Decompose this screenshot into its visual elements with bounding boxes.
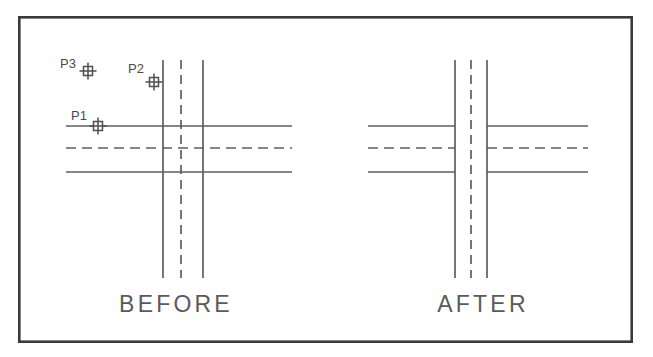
point-p3-label: P3 [60,56,76,71]
point-p1-label: P1 [71,108,87,123]
point-p2[interactable]: P2 [128,61,163,91]
panel-before: P3P2P1BEFORE [60,56,292,317]
point-p2-label: P2 [128,61,144,76]
point-p1[interactable]: P1 [71,108,107,135]
panel-after: AFTER [368,60,588,317]
cad-comparison-figure: P3P2P1BEFOREAFTER [0,0,653,357]
before-caption: BEFORE [119,291,233,317]
drawing-canvas: P3P2P1BEFOREAFTER [0,0,653,357]
after-caption: AFTER [437,291,528,317]
point-p3[interactable]: P3 [60,56,97,80]
drawing-frame [19,17,631,341]
